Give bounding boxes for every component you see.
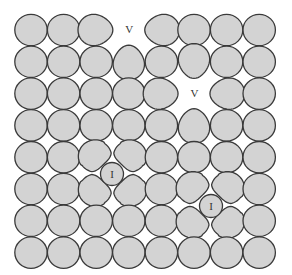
lattice-atom xyxy=(80,46,112,77)
lattice-atom xyxy=(145,110,177,141)
interstitial-atom: I xyxy=(101,163,124,186)
lattice-atom xyxy=(80,78,112,109)
lattice-atoms xyxy=(15,14,276,268)
deformed-atom xyxy=(210,78,245,109)
lattice-atom xyxy=(178,142,210,173)
lattice-atom xyxy=(210,142,242,173)
lattice-atom xyxy=(47,14,79,45)
lattice-atom xyxy=(47,78,79,109)
lattice-atom xyxy=(243,46,275,77)
deformed-atom xyxy=(178,109,209,144)
deformed-atom xyxy=(178,44,209,79)
deformed-atom xyxy=(78,14,113,45)
lattice-atom xyxy=(243,110,275,141)
lattice-atom xyxy=(47,110,79,141)
deformed-atom xyxy=(143,78,178,109)
lattice-atom xyxy=(80,205,112,236)
interstitial-label: I xyxy=(110,168,114,180)
lattice-atom xyxy=(243,142,275,173)
lattice-atom xyxy=(15,110,47,141)
lattice-atom xyxy=(80,237,112,268)
lattice-atom xyxy=(15,142,47,173)
lattice-atom xyxy=(47,173,79,204)
lattice-atom xyxy=(145,46,177,77)
lattice-atom xyxy=(15,205,47,236)
lattice-atom xyxy=(243,78,275,109)
lattice-atom xyxy=(243,237,275,268)
lattice-atom xyxy=(178,237,210,268)
lattice-atom xyxy=(145,205,177,236)
lattice-atom xyxy=(113,78,145,109)
deformed-atom xyxy=(145,14,180,45)
lattice-atom xyxy=(113,110,145,141)
vacancy-label: V xyxy=(125,23,133,35)
lattice-atom xyxy=(47,46,79,77)
lattice-atom xyxy=(210,237,242,268)
interstitial-label: I xyxy=(209,200,213,212)
lattice-atom xyxy=(210,14,242,45)
lattice-atom xyxy=(113,205,145,236)
interstitial-atom: I xyxy=(200,195,223,218)
deformed-atom xyxy=(113,45,144,80)
lattice-atom xyxy=(47,237,79,268)
lattice-atom xyxy=(210,110,242,141)
crystal-lattice-diagram: VV II xyxy=(0,0,292,275)
lattice-atom xyxy=(47,142,79,173)
lattice-atom xyxy=(15,46,47,77)
lattice-atom xyxy=(145,142,177,173)
lattice-atom xyxy=(15,237,47,268)
lattice-atom xyxy=(145,173,177,204)
lattice-atom xyxy=(113,237,145,268)
lattice-atom xyxy=(210,46,242,77)
lattice-atom xyxy=(243,205,275,236)
lattice-atom xyxy=(15,173,47,204)
vacancy-label: V xyxy=(191,87,199,99)
lattice-atom xyxy=(80,110,112,141)
lattice-atom xyxy=(178,14,210,45)
lattice-atom xyxy=(15,14,47,45)
lattice-atom xyxy=(243,14,275,45)
lattice-atom xyxy=(15,78,47,109)
lattice-atom xyxy=(243,173,275,204)
lattice-atom xyxy=(47,205,79,236)
lattice-atom xyxy=(145,237,177,268)
